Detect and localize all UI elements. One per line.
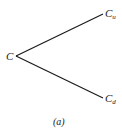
tree-edges <box>0 0 122 132</box>
edge-root-to-up <box>16 14 103 56</box>
node-down-subscript: d <box>112 98 116 106</box>
node-up-subscript: u <box>112 13 116 21</box>
node-down-label: Cd <box>105 93 116 104</box>
edge-root-to-down <box>16 56 103 98</box>
figure-caption: (a) <box>53 117 65 127</box>
node-root-text: C <box>6 50 13 62</box>
node-up-label: Cu <box>105 8 116 19</box>
node-root-label: C <box>6 51 13 62</box>
